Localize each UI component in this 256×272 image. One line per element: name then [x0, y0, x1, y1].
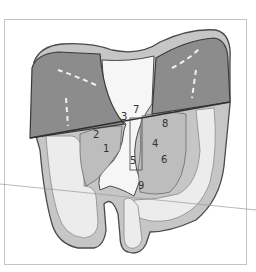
label-6: 6 — [161, 154, 167, 165]
label-1: 1 — [103, 143, 109, 154]
label-3: 3 — [121, 111, 127, 122]
anatomy-diagram: 1 2 3 4 5 6 7 8 9 — [0, 0, 256, 272]
label-8: 8 — [162, 118, 168, 129]
label-9: 9 — [138, 180, 144, 191]
label-4: 4 — [152, 138, 158, 149]
label-7: 7 — [133, 104, 139, 115]
label-2: 2 — [93, 129, 99, 140]
label-5: 5 — [130, 155, 136, 166]
